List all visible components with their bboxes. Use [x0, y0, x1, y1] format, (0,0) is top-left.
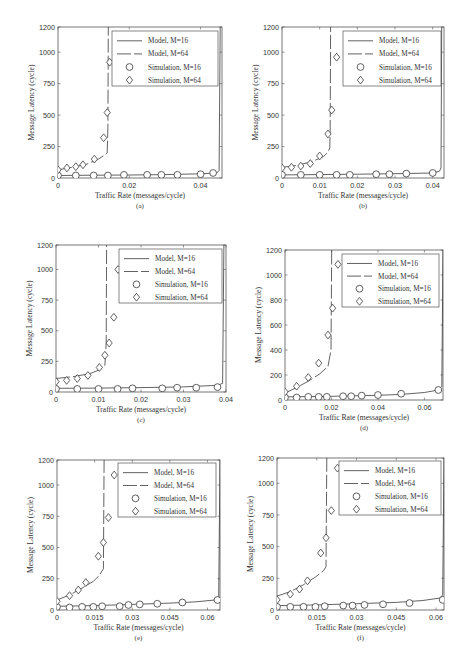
sim-m16-marker	[95, 386, 102, 393]
sim-m16-marker	[129, 385, 136, 392]
sim-m64-marker	[75, 586, 81, 594]
x-tick-label: 0.04	[194, 181, 208, 190]
sim-m16-marker	[154, 600, 161, 607]
sim-m16-marker	[406, 600, 413, 607]
x-tick-label: 0.03	[388, 181, 402, 190]
chart-panel-e: 02505007501000120000.0150.030.0450.06Tra…	[26, 456, 221, 642]
sim-m16-marker	[386, 171, 393, 178]
x-tick-label: 0	[280, 181, 284, 190]
sim-m64-marker	[96, 364, 102, 372]
panel-caption: (a)	[136, 202, 144, 210]
sim-m64-marker	[329, 106, 335, 114]
sim-m16-marker	[114, 386, 121, 393]
sim-m64-marker	[330, 304, 336, 312]
legend-label: Model, M=64	[155, 268, 195, 276]
sim-m64-marker	[288, 163, 294, 171]
sim-m64-marker	[287, 590, 293, 598]
x-axis-label: Traffic Rate (messages/cycle)	[319, 413, 410, 422]
sim-m16-marker	[279, 171, 286, 178]
legend-circle-icon	[133, 281, 140, 288]
legend-label: Model, M=16	[379, 37, 419, 45]
y-axis-label: Message Latency (cycle)	[27, 64, 36, 140]
y-tick-label: 0	[51, 174, 55, 183]
legend-label: Simulation, M=16	[378, 285, 431, 293]
y-tick-label: 0	[49, 388, 53, 397]
y-tick-label: 1200	[38, 456, 54, 465]
sim-m16-marker	[439, 596, 446, 603]
sim-m16-marker	[136, 601, 143, 608]
x-tick-label: 0.01	[313, 181, 327, 190]
panel-caption: (b)	[359, 202, 368, 210]
legend: Model, M=16Model, M=64Simulation, M=16Si…	[118, 463, 216, 517]
sim-m64-marker	[83, 579, 89, 587]
legend-label: Simulation, M=16	[154, 495, 207, 503]
sim-m16-marker	[90, 172, 97, 179]
sim-m16-marker	[90, 603, 97, 610]
y-tick-label: 750	[42, 512, 54, 521]
x-tick-label: 0.06	[200, 613, 214, 622]
y-tick-label: 600	[270, 321, 282, 330]
legend-label: Model, M=16	[375, 467, 415, 475]
x-tick-label: 0	[54, 395, 58, 404]
sim-m64-marker	[296, 585, 302, 593]
sim-m64-marker	[80, 161, 86, 169]
x-axis-label: Traffic Rate (messages/cycle)	[315, 623, 406, 632]
sim-m16-marker	[346, 171, 353, 178]
sim-m16-marker	[361, 602, 368, 609]
sim-m16-marker	[293, 394, 300, 401]
legend-label: Model, M=64	[379, 50, 419, 58]
sim-m64-marker	[274, 596, 280, 604]
sim-m16-marker	[333, 171, 340, 178]
legend-label: Simulation, M=16	[155, 281, 208, 289]
sim-m16-marker	[74, 386, 81, 393]
legend-label: Simulation, M=64	[379, 77, 432, 85]
x-tick-label: 0	[55, 613, 59, 622]
y-axis-label: Message Latency (cycle)	[26, 497, 35, 573]
y-tick-label: 1200	[266, 246, 282, 255]
sim-m16-marker	[179, 599, 186, 606]
sim-m16-marker	[99, 603, 106, 610]
legend-label: Model, M=16	[155, 255, 195, 263]
model-m64-line	[56, 245, 107, 379]
x-tick-label: 0.045	[161, 613, 179, 622]
sim-m64-marker	[307, 160, 313, 168]
x-tick-label: 0	[275, 613, 279, 622]
chart-panel-b: 02505007501000120000.010.020.030.04Traff…	[251, 23, 444, 210]
model-m64-line	[277, 458, 327, 596]
legend: Model, M=16Model, M=64Simulation, M=16Si…	[342, 254, 439, 307]
y-tick-label: 1000	[37, 265, 53, 274]
legend-circle-icon	[357, 64, 364, 71]
sim-m64-marker	[304, 577, 310, 585]
legend-circle-icon	[126, 64, 133, 71]
sim-m16-marker	[316, 171, 323, 178]
sim-m64-marker	[105, 514, 111, 522]
y-tick-label: 500	[262, 542, 274, 551]
sim-m16-marker	[323, 393, 330, 400]
legend-label: Model, M=16	[378, 260, 418, 268]
legend: Model, M=16Model, M=64Simulation, M=16Si…	[339, 461, 441, 515]
y-tick-label: 0	[270, 606, 274, 615]
y-tick-label: 750	[262, 511, 274, 520]
y-tick-label: 400	[270, 346, 282, 355]
y-tick-label: 1200	[258, 454, 274, 463]
y-axis-label: Message Latency (cycle)	[254, 287, 263, 363]
sim-m64-marker	[318, 549, 324, 557]
x-tick-label: 0.06	[429, 613, 443, 622]
sim-m64-marker	[101, 134, 107, 142]
y-tick-label: 500	[42, 543, 54, 552]
panel-caption: (c)	[137, 416, 145, 424]
sim-m16-marker	[159, 385, 166, 392]
sim-m16-marker	[315, 393, 322, 400]
sim-m16-marker	[340, 393, 347, 400]
x-tick-label: 0.04	[219, 395, 233, 404]
sim-m16-marker	[375, 392, 382, 399]
y-tick-label: 0	[50, 606, 54, 615]
sim-m64-marker	[317, 152, 323, 160]
legend-label: Simulation, M=64	[155, 294, 208, 302]
sim-m16-marker	[349, 602, 356, 609]
y-tick-label: 250	[262, 574, 274, 583]
y-tick-label: 250	[41, 357, 53, 366]
sim-m16-marker	[66, 604, 73, 611]
y-axis-label: Message Latency (cycle)	[251, 64, 260, 140]
legend-circle-icon	[353, 493, 360, 500]
